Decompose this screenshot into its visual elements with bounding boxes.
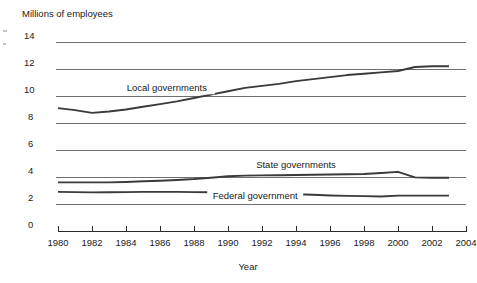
- x-axis-title: Year: [238, 261, 257, 272]
- federal-government-label: Federal government: [213, 190, 298, 201]
- x-tick-label: 1980: [47, 237, 68, 248]
- y-tick-label: 8: [28, 111, 33, 122]
- y-tick-label: 6: [28, 138, 33, 149]
- x-tick-label: 1984: [115, 237, 136, 248]
- x-tick-label: 1992: [251, 237, 272, 248]
- x-tick-label: 2002: [421, 237, 442, 248]
- x-tick-label: 1998: [353, 237, 374, 248]
- line-chart: 14121086420 1980198219841986198819901992…: [0, 0, 477, 283]
- x-tick-label: 1982: [81, 237, 102, 248]
- y-tick-label: 12: [24, 57, 35, 68]
- y-tick-label: 14: [24, 30, 35, 41]
- x-tick-label: 1990: [217, 237, 238, 248]
- y-tick-label: 0: [28, 219, 33, 230]
- state-governments-label: State governments: [256, 159, 336, 170]
- x-tick-label: 2000: [387, 237, 408, 248]
- y-tick-label: 4: [28, 165, 33, 176]
- local-governments-label: Local governments: [127, 82, 208, 93]
- y-axis-title: Millions of employees: [22, 8, 113, 19]
- x-tick-label: 1986: [149, 237, 170, 248]
- chart-container: 14121086420 1980198219841986198819901992…: [0, 0, 477, 283]
- x-tick-label: 1988: [183, 237, 204, 248]
- x-tick-label: 1996: [319, 237, 340, 248]
- y-tick-label: 10: [24, 84, 35, 95]
- y-tick-label: 2: [28, 192, 33, 203]
- x-tick-label: 2004: [455, 237, 476, 248]
- x-tick-label: 1994: [285, 237, 306, 248]
